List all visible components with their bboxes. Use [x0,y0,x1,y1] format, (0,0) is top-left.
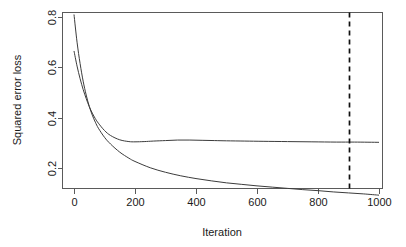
series-validation-loss [74,51,379,142]
y-tick-label: 0.4 [46,111,58,126]
y-tick-label: 0.2 [46,161,58,176]
chart-figure: 0.20.40.60.8 02004006008001000 Iteration… [0,0,406,247]
line-chart-canvas: 0.20.40.60.8 02004006008001000 Iteration… [0,0,406,247]
y-tick-label: 0.8 [46,10,58,25]
plot-frame [63,13,383,189]
y-axis-tick-labels: 0.20.40.60.8 [46,10,58,176]
x-tick-label: 400 [187,196,205,208]
x-tick-label: 200 [126,196,144,208]
y-axis-ticks [58,18,63,169]
data-series-group [74,14,379,195]
x-axis-tick-labels: 02004006008001000 [71,196,391,208]
x-axis-ticks [75,189,380,194]
y-axis-title: Squared error loss [11,54,23,145]
x-tick-label: 800 [309,196,327,208]
x-axis-title: Iteration [202,226,242,238]
x-tick-label: 0 [71,196,77,208]
series-training-loss [74,14,379,195]
x-tick-label: 1000 [367,196,391,208]
x-tick-label: 600 [248,196,266,208]
y-tick-label: 0.6 [46,60,58,75]
